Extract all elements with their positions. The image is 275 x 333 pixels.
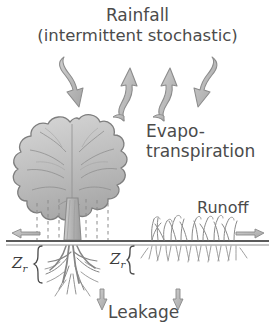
evapotranspiration-arrow-right [153,68,177,121]
root-depth-subscript-tree: r [22,263,27,274]
root-depth-symbol-grass: Z [110,250,120,268]
rainfall-title: Rainfall [106,5,169,25]
water-balance-diagram: Rainfall (intermittent stochastic) Evapo… [0,0,275,333]
evapotranspiration-arrow-left [113,68,137,121]
evapotranspiration-label-line2: transpiration [146,142,255,162]
root-depth-brace-grass [127,246,134,274]
runoff-arrow-left [12,229,40,238]
leakage-label: Leakage [108,303,179,323]
runoff-label: Runoff [197,199,249,217]
diagram-canvas [0,0,275,333]
rainfall-arrow-left [60,57,83,107]
tree-trunk [64,198,81,240]
leakage-arrow-left [97,289,107,310]
runoff-arrow-right [236,229,264,238]
ground-surface-line [6,241,269,245]
rainfall-subtitle: (intermittent stochastic) [0,27,275,46]
root-depth-label-tree: Zr [12,254,27,274]
rainfall-arrow-right [194,57,217,107]
evapotranspiration-label-line1: Evapo- [146,121,205,141]
root-depth-brace-tree [34,246,42,283]
root-depth-subscript-grass: r [120,259,125,270]
evapotranspiration-label: Evapo- transpiration [146,122,255,161]
root-depth-label-grass: Zr [110,250,125,270]
grass-root-system [141,246,247,262]
rainfall-label: Rainfall (intermittent stochastic) [0,6,275,46]
root-depth-symbol-tree: Z [12,254,22,272]
grass-patch [152,215,237,240]
tree-root-system [45,246,100,296]
